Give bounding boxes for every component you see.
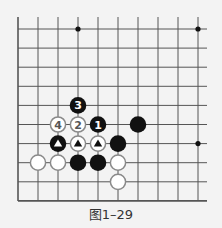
go-board: 3421: [0, 0, 222, 228]
white-stone: [110, 174, 125, 189]
white-stone: 2: [70, 117, 85, 132]
white-stone: [110, 155, 125, 170]
move-number: 3: [74, 99, 82, 112]
white-stone: [30, 155, 45, 170]
move-number: 2: [74, 119, 82, 132]
star-point: [195, 26, 200, 31]
black-stone: [110, 135, 127, 152]
black-stone: 3: [70, 97, 87, 114]
figure-caption: 图1–29: [0, 204, 222, 223]
white-stone: [90, 136, 105, 151]
black-stone: [50, 135, 67, 152]
white-stone: [50, 155, 65, 170]
white-stone: [70, 136, 85, 151]
black-stone: [70, 154, 87, 171]
star-point: [75, 26, 80, 31]
black-stone: [90, 154, 107, 171]
move-number: 1: [94, 119, 102, 132]
black-stone: [130, 116, 147, 133]
move-number: 4: [54, 119, 62, 132]
black-stone: 1: [90, 116, 107, 133]
board-grid: [18, 17, 207, 201]
star-point: [195, 141, 200, 146]
white-stone: 4: [50, 117, 65, 132]
